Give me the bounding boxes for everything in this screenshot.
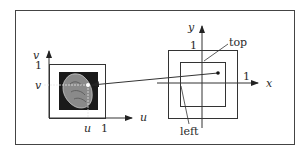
sample-point	[86, 83, 90, 87]
x-tick-one: 1	[243, 70, 250, 83]
left-label: left	[180, 125, 199, 138]
outer-frame	[16, 11, 295, 145]
inner-square	[181, 63, 226, 107]
v-tick-one: 1	[35, 59, 42, 72]
y-axis-label: y	[187, 21, 195, 34]
x-axis-label: x	[266, 77, 273, 90]
texture-space-panel: v 1 v u 1 u	[33, 49, 147, 135]
u-axis-label: u	[140, 111, 147, 124]
y-tick-one: 1	[190, 39, 197, 52]
v-tick-value: v	[35, 79, 42, 92]
texture-mapping-diagram: v 1 v u 1 u y 1 top 1 x left	[0, 0, 303, 152]
u-tick-one: 1	[101, 122, 108, 135]
mapped-point	[216, 71, 220, 75]
screen-space-panel: y 1 top 1 x left	[157, 21, 273, 138]
top-label: top	[229, 36, 247, 49]
outer-square	[169, 51, 238, 119]
u-tick-value: u	[84, 122, 91, 135]
top-callout-line	[204, 44, 228, 61]
